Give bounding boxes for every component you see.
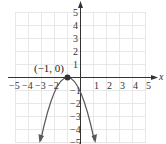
curve-arrow-right-icon	[92, 134, 98, 143]
y-tick-labels: 5 4 3 2 1 −1 −2 −3 −4 −5	[70, 7, 81, 144]
svg-text:2: 2	[73, 46, 78, 57]
x-axis-arrow-icon	[151, 75, 158, 80]
y-axis-arrow-icon	[78, 1, 83, 8]
svg-text:3: 3	[73, 33, 78, 44]
parabola-graph: x −5 −4 −3 −2 1 2 3 4 5 5 4 3 2 1 −1 −2 …	[0, 0, 166, 144]
svg-text:1: 1	[73, 59, 78, 70]
svg-text:−1: −1	[70, 85, 81, 96]
svg-text:3: 3	[120, 80, 125, 91]
vertex-label: (−1, 0)	[34, 62, 64, 75]
svg-text:5: 5	[73, 7, 78, 18]
vertex-point	[65, 75, 71, 81]
svg-text:−5: −5	[9, 80, 20, 91]
x-axis-label: x	[158, 71, 164, 82]
svg-text:−5: −5	[70, 137, 81, 144]
svg-text:1: 1	[94, 80, 99, 91]
svg-text:−3: −3	[35, 80, 46, 91]
svg-text:−4: −4	[22, 80, 33, 91]
svg-text:4: 4	[133, 80, 138, 91]
y-axis	[78, 1, 83, 144]
svg-text:−2: −2	[48, 80, 59, 91]
svg-text:5: 5	[146, 80, 151, 91]
svg-text:−4: −4	[70, 124, 81, 135]
svg-text:−2: −2	[70, 98, 81, 109]
svg-text:−3: −3	[70, 111, 81, 122]
svg-text:2: 2	[107, 80, 112, 91]
svg-text:4: 4	[73, 20, 78, 31]
